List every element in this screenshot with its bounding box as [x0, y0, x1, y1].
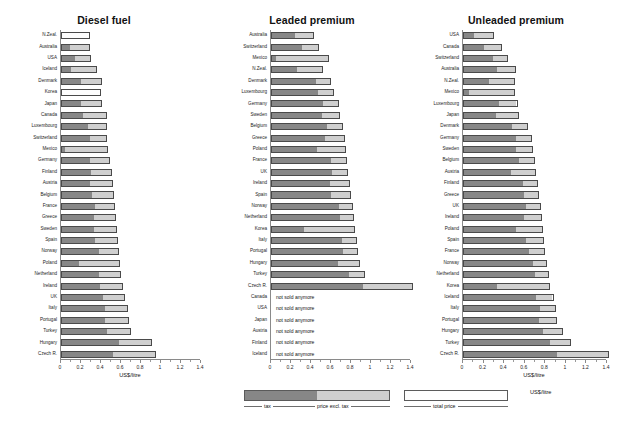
- plot-area-diesel: N.Zeal.AustraliaUSAIcelandDenmarkKoreaJa…: [60, 30, 200, 360]
- bar-segment-tax: [62, 272, 99, 277]
- category-label: USA: [1, 56, 57, 61]
- bar-segment-net: [342, 238, 356, 243]
- category-label: Spain: [1, 238, 57, 243]
- x-tick-label: 0.2: [287, 364, 294, 370]
- category-label: UK: [211, 170, 267, 175]
- bar-belgium: [463, 157, 535, 164]
- bar-canada: [463, 44, 502, 51]
- bar-segment-net: [92, 192, 113, 197]
- x-tick-minor: [360, 360, 361, 362]
- bar-segment-tax: [272, 101, 323, 106]
- bar-segment-tax: [62, 56, 75, 61]
- bar-segment-tax: [464, 352, 557, 357]
- bar-segment-tax: [464, 33, 474, 38]
- bar-segment-tax: [464, 101, 499, 106]
- bar-ireland: [271, 180, 350, 187]
- category-label: Mexico: [403, 90, 459, 95]
- bar-segment-net: [343, 249, 357, 254]
- chart-title-leaded: Leaded premium: [208, 14, 416, 26]
- bar-segment-tax: [62, 124, 88, 129]
- bar-segment-net: [113, 352, 155, 357]
- bar-segment-tax: [464, 329, 543, 334]
- bar-segment-tax: [62, 113, 83, 118]
- bar-segment-tax: [464, 340, 550, 345]
- x-tick-minor: [320, 360, 321, 362]
- bar-netherland: [463, 271, 549, 278]
- bar-segment-tax: [272, 181, 330, 186]
- category-label: Poland: [1, 261, 57, 266]
- legend-label-total: total price: [431, 403, 458, 409]
- bar-austria: [61, 180, 113, 187]
- bar-segment-net: [323, 101, 338, 106]
- bar-segment-net: [325, 136, 344, 141]
- bar-austria: [463, 169, 536, 176]
- bar-poland: [271, 146, 346, 153]
- bar-segment-tax: [62, 238, 95, 243]
- bar-segment-net: [103, 295, 124, 300]
- bar-usa: [61, 55, 91, 62]
- bar-n-zeal: [271, 66, 323, 73]
- bar-segment-net: [75, 56, 90, 61]
- bar-segment-net: [349, 272, 364, 277]
- category-label: Sweden: [211, 113, 267, 118]
- bar-segment-tax: [464, 192, 524, 197]
- x-tick-label: 0: [59, 364, 62, 370]
- bar-segment-tax: [62, 181, 90, 186]
- x-tick-label: 1: [159, 364, 162, 370]
- category-label: Finland: [1, 170, 57, 175]
- category-label: Hungary: [211, 261, 267, 266]
- bar-segment-net: [71, 67, 96, 72]
- bar-segment-net: [90, 136, 106, 141]
- bar-segment-net: [91, 170, 111, 175]
- bar-ireland: [61, 283, 123, 290]
- category-label: Luxembourg: [1, 124, 57, 129]
- category-label: Greece: [403, 193, 459, 198]
- bar-segment-net: [302, 45, 318, 50]
- bar-segment-tax: [272, 45, 302, 50]
- bar-segment-net: [512, 124, 527, 129]
- category-label: Denmark: [1, 79, 57, 84]
- bar-canada: [61, 112, 107, 119]
- bar-norway: [61, 248, 119, 255]
- x-tick-minor: [380, 360, 381, 362]
- x-tick-label: 0.4: [307, 364, 314, 370]
- bar-segment-net: [304, 227, 354, 232]
- x-tick-minor: [280, 360, 281, 362]
- unit-label: US$/litre: [530, 389, 551, 395]
- bar-segment-tax: [464, 45, 484, 50]
- category-label: UK: [1, 295, 57, 300]
- bar-segment-net: [529, 249, 544, 254]
- category-label: UK: [403, 204, 459, 209]
- bar-segment-net: [79, 261, 119, 266]
- bar-korea: [61, 89, 101, 96]
- bar-segment-net: [524, 215, 541, 220]
- bar-sweden: [271, 112, 340, 119]
- bar-segment-net: [524, 192, 538, 197]
- bar-segment-net: [62, 90, 100, 95]
- category-label: Korea: [1, 90, 57, 95]
- bar-segment-net: [318, 90, 333, 95]
- bar-segment-net: [88, 124, 106, 129]
- bar-spain: [271, 191, 351, 198]
- category-label: Spain: [403, 238, 459, 243]
- not-sold-anymore-text: not sold anymore: [276, 352, 314, 357]
- bar-segment-tax: [62, 67, 71, 72]
- legend-swatch-tax: [245, 391, 317, 400]
- bar-segment-tax: [272, 272, 349, 277]
- bar-segment-net: [493, 56, 508, 61]
- bar-segment-tax: [272, 67, 297, 72]
- plot-area-unleaded: USACanadaSwitzerlandAustraliaN.Zeal.Mexi…: [462, 30, 606, 360]
- category-label: Ireland: [403, 215, 459, 220]
- bar-japan: [61, 100, 102, 107]
- bar-ireland: [463, 214, 542, 221]
- category-label: N.Zeal.: [403, 79, 459, 84]
- bar-france: [61, 203, 115, 210]
- category-label: Iceland: [403, 295, 459, 300]
- bar-czech-r: [271, 283, 413, 290]
- bars-container-diesel: N.Zeal.AustraliaUSAIcelandDenmarkKoreaJa…: [60, 30, 200, 360]
- bar-sweden: [61, 226, 117, 233]
- bar-segment-net: [469, 90, 515, 95]
- bar-segment-net: [81, 101, 101, 106]
- category-label: Portugal: [403, 318, 459, 323]
- bar-segment-net: [519, 158, 534, 163]
